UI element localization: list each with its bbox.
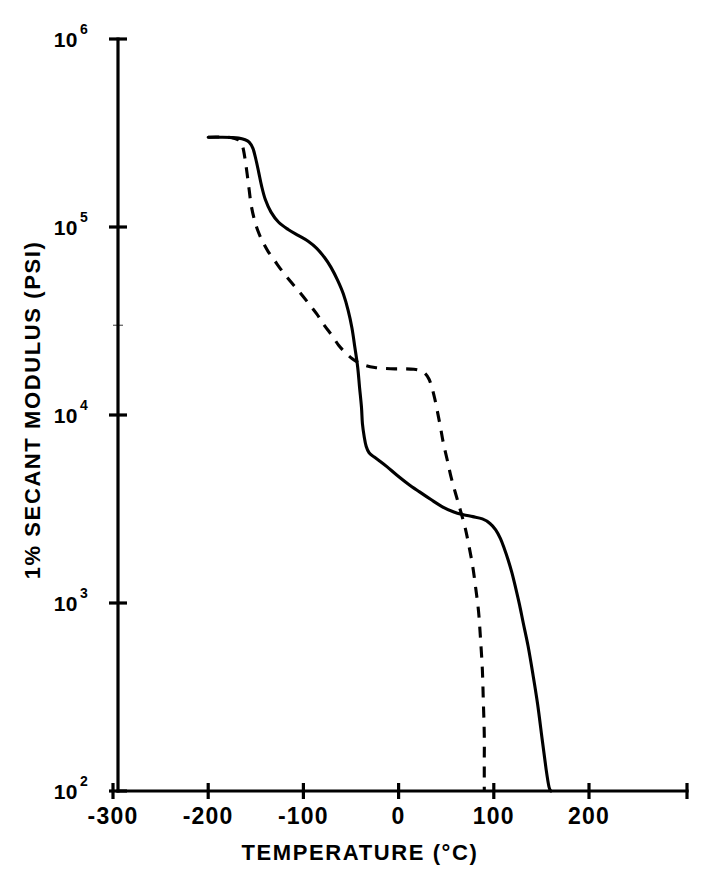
y-tick-label: 10 — [54, 592, 78, 615]
y-tick-exponent: 5 — [80, 209, 88, 225]
y-tick-label: 10 — [54, 780, 78, 803]
y-axis-title: 1% SECANT MODULUS (PSI) — [20, 241, 45, 580]
y-tick-exponent: 4 — [80, 397, 88, 413]
chart-canvas: 102103104105106 -300-200-1000100200 TEMP… — [0, 0, 719, 870]
x-tick-label: 200 — [568, 803, 610, 829]
y-tick-exponent: 3 — [80, 585, 88, 601]
y-tick-label: 10 — [54, 216, 78, 239]
x-tick-label: -100 — [278, 803, 329, 829]
x-axis-group: -300-200-1000100200 — [88, 783, 687, 829]
x-tick-label-group: -300-200-1000100200 — [88, 803, 610, 829]
y-tick-label: 10 — [54, 404, 78, 427]
data-series-group — [208, 137, 551, 791]
x-tick-label: -300 — [88, 803, 139, 829]
x-tick-label: -200 — [183, 803, 234, 829]
y-tick-exponent: 6 — [80, 21, 88, 37]
dashed-curve — [208, 137, 484, 791]
y-tick-label: 10 — [54, 28, 78, 51]
figure-root: 102103104105106 -300-200-1000100200 TEMP… — [0, 0, 719, 870]
y-tick-exponent: 2 — [80, 773, 88, 789]
x-tick-label: 0 — [392, 803, 406, 829]
x-axis-title: TEMPERATURE (°C) — [242, 840, 479, 865]
y-axis-group: 102103104105106 — [54, 21, 127, 803]
x-tick-label: 100 — [473, 803, 515, 829]
y-tick-label-group: 102103104105106 — [54, 21, 88, 803]
